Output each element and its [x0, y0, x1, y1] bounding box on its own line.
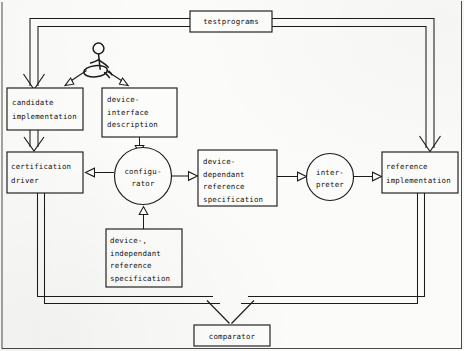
edge-device-dependant-spec-to-interpreter — [277, 172, 307, 181]
node-dirs-line-4: specification — [110, 274, 170, 283]
node-configurator[interactable]: configu- rator — [115, 148, 172, 205]
node-refimpl-line-1: reference — [386, 162, 428, 171]
edge-actor-to-device-interface — [108, 72, 129, 86]
user-actor — [83, 43, 112, 78]
node-ddrs-line-3: reference — [203, 182, 245, 191]
edge-testprograms-to-reference-implementation — [272, 19, 441, 152]
node-candidate-implementation[interactable]: candidate implementation — [7, 88, 83, 130]
node-testprograms[interactable]: testprograms — [190, 11, 272, 32]
edge-candidate-to-certification-driver — [24, 130, 44, 151]
node-ddrs-line-2: dependant — [203, 170, 245, 179]
node-device-interface-description[interactable]: device- interface description — [102, 88, 177, 137]
node-candidate-line-1: candidate — [12, 98, 54, 107]
node-configurator-line-1: configu- — [124, 167, 161, 176]
edge-configurator-to-certification-driver — [86, 168, 115, 177]
node-refimpl-line-2: implementation — [386, 176, 451, 185]
edge-interpreter-to-reference-implementation — [354, 172, 382, 181]
node-dirs-line-3: reference — [110, 261, 152, 270]
edge-device-independant-spec-to-configurator — [139, 207, 148, 230]
edge-testprograms-to-candidate — [24, 19, 191, 90]
node-certification-driver[interactable]: certification driver — [7, 152, 83, 193]
architecture-diagram: testprograms — [0, 0, 464, 351]
node-reference-implementation[interactable]: reference implementation — [382, 152, 458, 193]
node-dirs-line-2: independant — [110, 249, 161, 258]
node-configurator-line-2: rator — [131, 179, 155, 188]
node-comparator-label: comparator — [209, 332, 256, 341]
node-device-independant-reference-specification[interactable]: device-, independant reference specifica… — [106, 229, 182, 287]
edge-actor-to-candidate — [65, 71, 87, 86]
node-certdriver-line-1: certification — [11, 162, 71, 171]
node-interpreter-line-2: preter — [316, 180, 344, 189]
edge-configurator-to-device-dependant-spec — [172, 172, 198, 181]
node-candidate-line-2: implementation — [12, 112, 77, 121]
node-devinterface-line-1: device- — [107, 95, 139, 104]
node-interpreter-line-1: inter- — [316, 168, 344, 177]
node-ddrs-line-1: device- — [203, 157, 235, 166]
node-testprograms-label: testprograms — [203, 17, 259, 26]
node-dirs-line-1: device-, — [110, 236, 147, 245]
node-devinterface-line-2: interface — [107, 108, 149, 117]
node-comparator[interactable]: comparator — [194, 325, 270, 346]
diagram-canvas: testprograms — [0, 0, 464, 351]
node-devinterface-line-3: description — [107, 120, 158, 129]
node-certdriver-line-2: driver — [11, 176, 39, 185]
node-ddrs-line-4: specification — [203, 195, 263, 204]
node-device-dependant-reference-specification[interactable]: device- dependant reference specificatio… — [198, 150, 277, 206]
node-interpreter[interactable]: inter- preter — [307, 154, 354, 201]
edge-reference-implementation-to-comparator — [232, 193, 425, 324]
